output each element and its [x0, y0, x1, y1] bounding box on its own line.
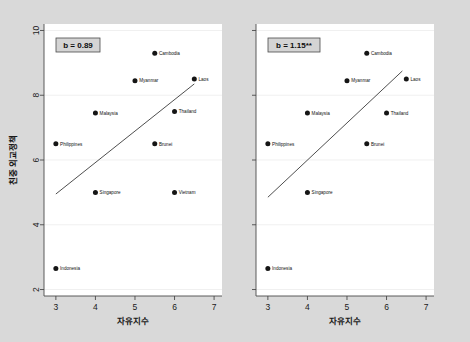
x-axis-tick-label: 5 — [133, 302, 138, 312]
x-axis-tick-label: 6 — [172, 302, 177, 312]
data-point-marker — [93, 190, 98, 195]
data-point-label: Thailand — [391, 111, 409, 116]
data-point-label: Thailand — [179, 109, 197, 114]
x-axis-tick-label: 4 — [93, 302, 98, 312]
data-point-label: Indonesia — [60, 266, 80, 271]
y-axis-title: 친중 외교정책 — [8, 135, 18, 185]
x-axis-tick-label: 3 — [53, 302, 58, 312]
data-point-label: Vietnam — [179, 190, 196, 195]
scatter-plot-right: CambodiaMyanmarLaosMalaysiaThailandPhili… — [235, 0, 470, 342]
data-point-marker — [53, 141, 58, 146]
data-point-label: Laos — [199, 77, 210, 82]
data-point-marker — [93, 111, 98, 116]
data-point-marker — [192, 77, 197, 82]
data-point-label: Brunei — [371, 142, 384, 147]
data-point-label: Laos — [411, 77, 422, 82]
y-axis-tick-label: 6 — [31, 157, 41, 162]
data-point-label: Malaysia — [312, 111, 331, 116]
data-point-marker — [172, 109, 177, 114]
data-point-marker — [172, 190, 177, 195]
data-point-label: Malaysia — [100, 111, 119, 116]
y-axis-tick-label: 10 — [31, 25, 41, 35]
data-point-label: Philippines — [60, 142, 83, 147]
y-axis-tick-label: 4 — [31, 222, 41, 227]
scatter-panel-left: CambodiaMyanmarLaosMalaysiaThailandPhili… — [0, 0, 235, 342]
data-point-marker — [265, 141, 270, 146]
data-point-marker — [384, 111, 389, 116]
data-point-marker — [305, 190, 310, 195]
data-point-label: Singapore — [312, 190, 333, 195]
x-axis-tick-label: 6 — [384, 302, 389, 312]
data-point-label: Myanmar — [351, 78, 371, 83]
y-axis-tick-label: 8 — [31, 93, 41, 98]
data-point-marker — [265, 266, 270, 271]
x-axis-tick-label: 7 — [212, 302, 217, 312]
data-point-label: Indonesia — [272, 266, 292, 271]
x-axis-tick-label: 4 — [305, 302, 310, 312]
data-point-marker — [404, 77, 409, 82]
scatter-panel-right: CambodiaMyanmarLaosMalaysiaThailandPhili… — [235, 0, 470, 342]
x-axis-tick-label: 5 — [345, 302, 350, 312]
data-point-label: Cambodia — [159, 51, 180, 56]
x-axis-title: 자유지수 — [329, 316, 361, 326]
data-point-marker — [152, 141, 157, 146]
data-point-marker — [53, 266, 58, 271]
data-point-marker — [152, 51, 157, 56]
data-point-label: Cambodia — [371, 51, 392, 56]
data-point-label: Myanmar — [139, 78, 159, 83]
data-point-marker — [364, 141, 369, 146]
scatter-plot-left: CambodiaMyanmarLaosMalaysiaThailandPhili… — [0, 0, 235, 342]
data-point-label: Singapore — [100, 190, 121, 195]
data-point-marker — [305, 111, 310, 116]
data-point-label: Philippines — [272, 142, 295, 147]
y-axis-tick-label: 2 — [31, 287, 41, 292]
x-axis-tick-label: 3 — [265, 302, 270, 312]
coefficient-annotation-label: b = 0.89 — [63, 41, 93, 50]
data-point-marker — [132, 78, 137, 83]
x-axis-title: 자유지수 — [117, 316, 149, 326]
data-point-label: Brunei — [159, 142, 172, 147]
data-point-marker — [364, 51, 369, 56]
x-axis-tick-label: 7 — [424, 302, 429, 312]
scatter-figure: CambodiaMyanmarLaosMalaysiaThailandPhili… — [0, 0, 470, 342]
data-point-marker — [344, 78, 349, 83]
coefficient-annotation-label: b = 1.15** — [276, 41, 313, 50]
